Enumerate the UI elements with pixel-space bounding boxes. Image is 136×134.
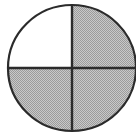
fraction-circle-diagram: Circle divided into four equal quarters …	[0, 0, 136, 134]
fraction-circle-figure: Circle divided into four equal quarters …	[0, 0, 136, 134]
